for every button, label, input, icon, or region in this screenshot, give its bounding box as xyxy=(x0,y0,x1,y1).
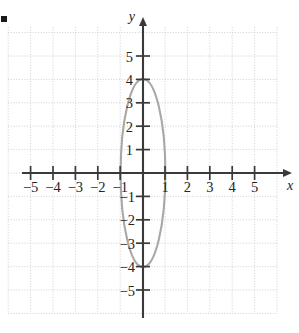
y-tick-label: 5 xyxy=(126,49,133,65)
y-tick-label: −5 xyxy=(120,283,135,299)
x-axis xyxy=(22,169,292,177)
y-axis xyxy=(139,17,147,318)
x-tick-label: −4 xyxy=(45,179,61,195)
x-axis-label: x xyxy=(286,178,294,193)
y-tick-label: −3 xyxy=(120,236,135,252)
y-tick-label: −2 xyxy=(120,212,135,228)
x-tick-labels: −5 −4 −3 −2 −1 1 2 3 4 5 xyxy=(23,179,258,195)
x-tick-label: 1 xyxy=(161,179,168,195)
y-tick-label: 4 xyxy=(126,72,134,88)
y-axis-label: y xyxy=(127,9,136,24)
x-axis-arrow-icon xyxy=(283,169,292,177)
y-tick-label: 2 xyxy=(126,119,133,135)
x-tick-label: −2 xyxy=(90,179,105,195)
y-tick-label: −1 xyxy=(120,189,135,205)
bullet-marker-icon xyxy=(1,16,7,22)
x-tick-label: −5 xyxy=(23,179,38,195)
y-tick-label: 1 xyxy=(126,142,133,158)
x-tick-label: 2 xyxy=(184,179,191,195)
coordinate-plane-svg: −5 −4 −3 −2 −1 1 2 3 4 5 5 4 3 2 1 −1 −2… xyxy=(0,0,299,333)
y-tick-label: −4 xyxy=(120,259,136,275)
x-tick-label: 3 xyxy=(206,179,213,195)
graph-figure: −5 −4 −3 −2 −1 1 2 3 4 5 5 4 3 2 1 −1 −2… xyxy=(0,0,299,333)
x-tick-label: −3 xyxy=(68,179,83,195)
x-tick-label: 5 xyxy=(251,179,258,195)
y-axis-arrow-icon xyxy=(139,17,147,26)
x-tick-label: 4 xyxy=(229,179,237,195)
y-tick-label: 3 xyxy=(126,95,133,111)
